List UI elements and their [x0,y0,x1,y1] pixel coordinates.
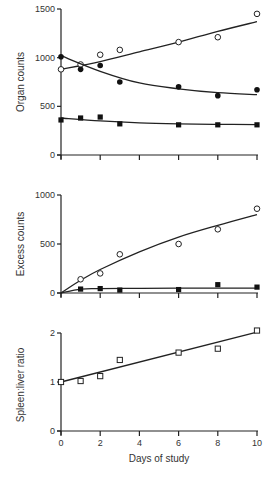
mid-fit-line [61,215,257,293]
filled-square-marker [176,287,181,292]
top-fit-line [61,22,257,70]
open-circle-marker [254,206,260,212]
x-tick-label: 4 [137,438,142,448]
filled-circle-marker [254,87,260,93]
filled-circle-marker [97,63,103,69]
open-square-marker [78,378,83,383]
mid-y-axis-label: Excess counts [15,212,26,276]
top-y-tick-label: 500 [40,101,55,111]
x-axis-label: Days of study [129,453,190,464]
open-square-marker [254,328,259,333]
filled-circle-marker [58,54,64,60]
x-tick-label: 8 [215,438,220,448]
top-y-tick-label: 1500 [35,4,55,14]
filled-circle-marker [78,67,84,73]
filled-square-marker [58,117,63,122]
x-tick-label: 10 [252,438,262,448]
open-circle-marker [215,227,221,233]
open-circle-marker [117,47,123,53]
filled-square-marker [98,286,103,291]
x-tick-label: 2 [98,438,103,448]
filled-circle-marker [117,79,123,85]
open-circle-marker [117,251,123,257]
filled-square-marker [215,282,220,287]
open-square-marker [58,379,63,384]
chart-figure: Organ counts Excess counts Spleen:liver … [0,0,278,483]
open-circle-marker [254,11,260,17]
filled-square-marker [78,115,83,120]
open-circle-marker [97,52,103,58]
bottom-y-tick-label: 0 [50,426,55,436]
x-tick-label: 0 [58,438,63,448]
filled-square-marker [254,122,259,127]
bottom-y-tick-label: 1 [50,377,55,387]
bottom-y-axis-label: Spleen:liver ratio [15,347,26,422]
mid-y-tick-label: 0 [50,288,55,298]
bottom-y-tick-label: 2 [50,328,55,338]
open-square-marker [117,357,122,362]
top-fit-line [61,118,257,125]
open-square-marker [98,374,103,379]
filled-square-marker [215,122,220,127]
mid-y-tick-label: 1000 [35,190,55,200]
open-circle-marker [58,67,64,73]
filled-square-marker [98,114,103,119]
top-fit-line [61,56,257,95]
x-tick-label: 6 [176,438,181,448]
filled-square-marker [176,122,181,127]
open-circle-marker [78,276,84,282]
top-y-tick-label: 1000 [35,53,55,63]
open-circle-marker [215,34,221,40]
open-square-marker [176,350,181,355]
filled-square-marker [78,286,83,291]
open-circle-marker [176,241,182,247]
filled-circle-marker [215,93,221,99]
top-y-tick-label: 0 [50,150,55,160]
filled-circle-marker [176,84,182,90]
filled-square-marker [254,285,259,290]
plot-area: 050010001500050010000120246810 [35,4,262,448]
open-circle-marker [97,271,103,277]
filled-square-marker [117,287,122,292]
top-y-axis-label: Organ counts [15,52,26,112]
open-circle-marker [176,39,182,45]
open-square-marker [215,346,220,351]
bottom-fit-line [61,332,257,382]
filled-square-marker [117,121,122,126]
mid-y-tick-label: 500 [40,239,55,249]
mid-fit-line [61,288,257,293]
